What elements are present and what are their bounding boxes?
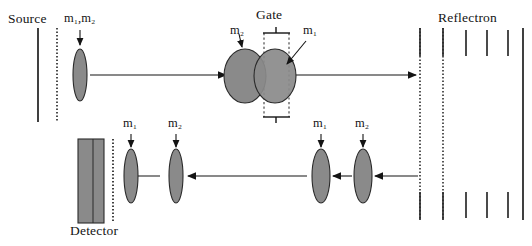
drift-packet-m1 xyxy=(312,149,330,203)
source-packet-label-text: m₁,m₂ xyxy=(64,11,95,25)
figure-canvas: Source Gate Reflectron Detector m₁,m₂ m₂… xyxy=(0,0,532,246)
gate-packet-m1-label: m₁ xyxy=(303,24,317,37)
detector-label: Detector xyxy=(70,224,118,238)
return-packet-m2 xyxy=(169,149,183,203)
diagram-vector-layer xyxy=(0,0,532,246)
source-packet xyxy=(73,49,87,101)
return-packet-m1-label-text: m₁ xyxy=(123,116,137,130)
drift-packet-m1-label: m₁ xyxy=(313,117,327,130)
gate-packet-m1-label-text: m₁ xyxy=(303,23,317,37)
drift-packet-m2-label: m₂ xyxy=(355,117,369,130)
detector-assembly xyxy=(78,139,113,223)
source-assembly xyxy=(38,28,57,122)
reflectron-assembly xyxy=(420,28,523,220)
reflectron-label: Reflectron xyxy=(438,11,497,25)
source-label: Source xyxy=(8,12,47,26)
return-packet-m1 xyxy=(124,149,138,203)
detector-plate xyxy=(78,139,104,223)
ion-packets xyxy=(73,49,372,203)
return-packet-m2-label: m₂ xyxy=(168,117,182,130)
pointer-gate-packet-m1 xyxy=(287,41,306,64)
gate-label: Gate xyxy=(256,8,282,22)
return-packet-m1-label: m₁ xyxy=(123,117,137,130)
source-packet-label: m₁,m₂ xyxy=(64,12,95,25)
drift-packet-m2-label-text: m₂ xyxy=(355,116,369,130)
gate-packet-m1 xyxy=(254,49,296,103)
gate-packet-m2-label-text: m₂ xyxy=(230,23,244,37)
return-packet-m2-label-text: m₂ xyxy=(168,116,182,130)
drift-packet-m1-label-text: m₁ xyxy=(313,116,327,130)
gate-packet-m2-label: m₂ xyxy=(230,24,244,37)
drift-packet-m2 xyxy=(354,149,372,203)
